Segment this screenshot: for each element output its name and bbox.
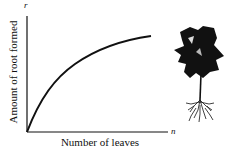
plant-cutting-illustration [174, 26, 224, 122]
root-formation-chart: r n Amount of root formed Number of leav… [0, 0, 237, 155]
x-axis-label: Number of leaves [40, 136, 160, 148]
y-axis-label: Amount of root formed [7, 17, 19, 127]
data-curve [27, 36, 151, 132]
chart-svg [0, 0, 237, 155]
y-axis-end-label: r [24, 0, 28, 10]
x-axis-end-label: n [171, 126, 176, 136]
